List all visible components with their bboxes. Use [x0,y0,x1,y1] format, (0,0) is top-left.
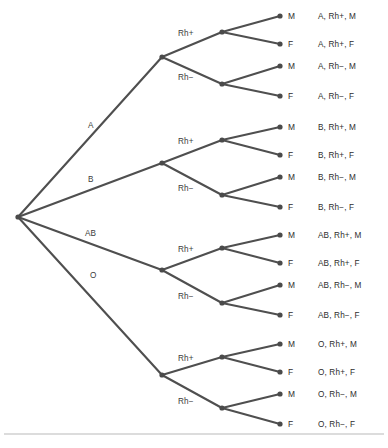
outcome-label-b-rhpos-m: B, Rh+, M [318,123,356,132]
outcome-label-o-rhneg-m: O, Rh−, M [318,390,357,399]
tree-edges [18,16,280,424]
node-leaf-ab-rhpos-f [277,260,282,265]
outcome-label-b-rhpos-f: B, Rh+, F [318,151,354,160]
outcome-label-ab-rhneg-m: AB, Rh−, M [318,281,362,290]
branch-ab-rhneg-f [222,303,280,315]
outcome-label-o-rhpos-f: O, Rh+, F [318,368,355,377]
node-b-rhneg [219,192,224,197]
leaf-label-b-rhneg-m: M [288,172,295,182]
branch-a-rhneg-f [222,84,280,96]
branch-root-to-b [18,163,162,217]
node-leaf-b-rhneg-m [277,174,282,179]
outcome-label-a-rhneg-m: A, Rh−, M [318,62,356,71]
leaf-label-a-rhneg-f: F [288,91,293,101]
leaf-label-ab-rhpos-f: F [288,258,293,268]
branch-a-rhneg-m [222,66,280,84]
leaf-label-ab-rhneg-f: F [288,310,293,320]
tree-leaf-labels: MFMFMFMFMFMFMFMF [288,11,295,429]
branch-root-to-ab [18,217,162,270]
branch-o-rhpos-m [222,344,280,357]
leaf-label-b-rhpos-f: F [288,150,293,160]
node-group-b [159,160,164,165]
node-leaf-ab-rhneg-f [277,312,282,317]
node-leaf-a-rhpos-f [277,41,282,46]
node-leaf-a-rhpos-m [277,13,282,18]
outcome-label-ab-rhpos-m: AB, Rh+, M [318,231,362,240]
branch-a-rhpos-m [222,16,280,32]
leaf-label-a-rhpos-f: F [288,39,293,49]
blood-type-probability-tree: ARh+Rh−BRh+Rh−ABRh+Rh−ORh+Rh− MFMFMFMFMF… [0,0,388,448]
branch-ab-rhneg-m [222,285,280,303]
node-leaf-o-rhneg-f [277,421,282,426]
outcome-label-b-rhneg-m: B, Rh−, M [318,173,356,182]
branch-label-a: A [88,121,94,130]
leaf-label-b-rhpos-m: M [288,122,295,132]
branch-ab-rhpos-m [222,235,280,248]
outcome-label-a-rhneg-f: A, Rh−, F [318,92,354,101]
branch-a-rhpos-f [222,32,280,44]
leaf-label-ab-rhneg-m: M [288,280,295,290]
node-leaf-o-rhpos-m [277,341,282,346]
branch-root-to-o [18,217,162,375]
outcome-label-o-rhneg-f: O, Rh−, F [318,420,355,429]
branch-label-b: B [88,175,94,184]
branch-label-b-rhneg: Rh− [178,184,194,193]
outcome-label-o-rhpos-m: O, Rh+, M [318,340,357,349]
leaf-label-a-rhneg-m: M [288,61,295,71]
node-leaf-a-rhneg-f [277,93,282,98]
node-o-rhneg [219,405,224,410]
branch-o-rhneg-f [222,408,280,424]
node-leaf-ab-rhpos-m [277,232,282,237]
branch-b-rhpos-m [222,127,280,140]
node-leaf-b-rhpos-m [277,124,282,129]
leaf-label-ab-rhpos-m: M [288,230,295,240]
outcome-label-a-rhpos-m: A, Rh+, M [318,12,356,21]
tree-nodes [15,13,282,426]
node-leaf-o-rhneg-m [277,391,282,396]
branch-o-rhpos-f [222,357,280,372]
branch-b-rhpos-f [222,140,280,155]
node-group-a [159,54,164,59]
branch-label-o-rhneg: Rh− [178,397,194,406]
outcome-label-a-rhpos-f: A, Rh+, F [318,40,354,49]
branch-root-to-a [18,57,162,217]
node-ab-rhpos [219,245,224,250]
leaf-label-a-rhpos-m: M [288,11,295,21]
leaf-label-o-rhneg-m: M [288,389,295,399]
outcome-label-b-rhneg-f: B, Rh−, F [318,203,354,212]
node-leaf-ab-rhneg-m [277,282,282,287]
node-group-ab [159,267,164,272]
node-leaf-a-rhneg-m [277,63,282,68]
branch-label-ab-rhneg: Rh− [178,292,194,301]
node-ab-rhneg [219,300,224,305]
leaf-label-b-rhneg-f: F [288,202,293,212]
node-a-rhneg [219,81,224,86]
branch-label-b-rhpos: Rh+ [178,137,194,146]
tree-outcome-labels: A, Rh+, MA, Rh+, FA, Rh−, MA, Rh−, FB, R… [318,12,362,429]
branch-b-rhneg-m [222,177,280,195]
branch-label-ab-rhpos: Rh+ [178,245,194,254]
branch-ab-rhpos-f [222,248,280,263]
leaf-label-o-rhpos-m: M [288,339,295,349]
node-group-o [159,372,164,377]
outcome-label-ab-rhneg-f: AB, Rh−, F [318,311,360,320]
branch-o-rhneg-m [222,394,280,408]
leaf-label-o-rhneg-f: F [288,419,293,429]
node-leaf-b-rhpos-f [277,152,282,157]
node-o-rhpos [219,354,224,359]
branch-label-o-rhpos: Rh+ [178,354,194,363]
branch-label-a-rhneg: Rh− [178,73,194,82]
node-leaf-b-rhneg-f [277,204,282,209]
node-b-rhpos [219,137,224,142]
leaf-label-o-rhpos-f: F [288,367,293,377]
branch-label-ab: AB [85,229,97,238]
tree-root-node [15,214,20,219]
branch-label-o: O [90,271,96,280]
branch-b-rhneg-f [222,195,280,207]
node-leaf-o-rhpos-f [277,369,282,374]
node-a-rhpos [219,29,224,34]
outcome-label-ab-rhpos-f: AB, Rh+, F [318,259,360,268]
branch-label-a-rhpos: Rh+ [178,29,194,38]
